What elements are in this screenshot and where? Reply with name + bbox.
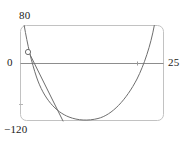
graph-canvas <box>0 0 188 144</box>
y-origin-label: 0 <box>7 57 13 68</box>
x-max-label: 25 <box>168 57 179 68</box>
graph-figure: 80 0 25 −120 <box>0 0 188 144</box>
y-max-label: 80 <box>19 10 30 21</box>
y-min-label: −120 <box>4 124 28 135</box>
open-circle-marker <box>25 49 30 54</box>
plot-frame <box>21 26 164 121</box>
